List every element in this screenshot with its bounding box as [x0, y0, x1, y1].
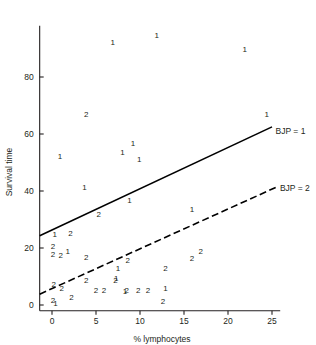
data-point-marker: 2 — [51, 297, 55, 305]
data-point-marker: 2 — [94, 287, 98, 295]
x-tick-label: 5 — [94, 317, 99, 326]
chart-canvas — [0, 0, 316, 345]
data-point-marker: 2 — [136, 287, 140, 295]
x-tick-label: 25 — [267, 317, 276, 326]
data-point-marker: 2 — [84, 254, 88, 262]
data-point-marker: 2 — [198, 248, 202, 256]
data-point-marker: 1 — [264, 111, 268, 119]
data-point-marker: 1 — [66, 248, 70, 256]
x-tick-label: 10 — [135, 317, 144, 326]
data-point-marker: 2 — [163, 265, 167, 273]
data-point-marker: 2 — [84, 277, 88, 285]
data-point-marker: 2 — [59, 285, 63, 293]
series-label-2: BJP = 2 — [280, 184, 310, 193]
y-tick-label: 60 — [0, 130, 34, 139]
data-point-marker: 2 — [84, 111, 88, 119]
data-point-marker: 1 — [82, 184, 86, 192]
x-axis-title: % lymphocytes — [133, 334, 190, 344]
data-point-marker: 1 — [120, 149, 124, 157]
data-point-marker: 1 — [190, 206, 194, 214]
data-point-marker: 2 — [102, 287, 106, 295]
data-point-marker: 1 — [127, 197, 131, 205]
y-tick-label: 20 — [0, 244, 34, 253]
data-point-marker: 1 — [163, 285, 167, 293]
data-point-marker: 2 — [68, 230, 72, 238]
data-point-marker: 2 — [190, 255, 194, 263]
data-point-marker: 1 — [137, 156, 141, 164]
data-point-marker: 1 — [242, 46, 246, 54]
x-tick-label: 0 — [50, 317, 55, 326]
data-point-marker: 1 — [110, 39, 114, 47]
data-point-marker: 2 — [125, 287, 129, 295]
data-point-marker: 1 — [52, 231, 56, 239]
data-point-marker: 2 — [113, 277, 117, 285]
data-point-marker: 1 — [154, 32, 158, 40]
data-point-marker: 2 — [69, 294, 73, 302]
data-point-marker: 1 — [58, 153, 62, 161]
data-point-marker: 2 — [125, 257, 129, 265]
x-tick-label: 20 — [223, 317, 232, 326]
y-axis-title: Survival time — [4, 148, 14, 197]
data-point-marker: 2 — [51, 251, 55, 259]
data-point-marker: 2 — [96, 211, 100, 219]
data-point-marker: 2 — [161, 298, 165, 306]
data-point-marker: 1 — [131, 140, 135, 148]
x-tick-label: 15 — [179, 317, 188, 326]
data-point-marker: 2 — [146, 287, 150, 295]
data-point-marker: 2 — [52, 281, 56, 289]
data-point-marker: 1 — [116, 265, 120, 273]
data-point-marker: 2 — [59, 252, 63, 260]
series-line-2 — [40, 187, 278, 294]
scatter-chart: 0510152025020406080111111111111111111BJP… — [0, 0, 316, 345]
y-tick-label: 80 — [0, 73, 34, 82]
y-tick-label: 0 — [0, 301, 34, 310]
series-line-1 — [40, 127, 272, 236]
series-label-1: BJP = 1 — [276, 126, 306, 135]
